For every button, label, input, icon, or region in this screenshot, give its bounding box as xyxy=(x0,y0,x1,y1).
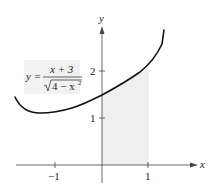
x-tick-label-neg1: −1 xyxy=(48,170,60,182)
equation-radicand: 4 − x xyxy=(52,80,75,92)
x-axis-label: x xyxy=(199,158,205,170)
equation-label: y = x + 3 4 − x 2 xyxy=(24,60,80,94)
y-axis-arrow-icon xyxy=(100,26,105,34)
equation-numerator: x + 3 xyxy=(49,63,74,75)
x-tick-label-1: 1 xyxy=(145,170,151,182)
x-axis-arrow-icon xyxy=(190,163,198,168)
y-tick-label-1: 1 xyxy=(90,112,96,124)
equation-exponent: 2 xyxy=(78,79,82,87)
y-tick-label-2: 2 xyxy=(90,65,96,77)
equation-lhs: y = xyxy=(25,70,41,82)
y-axis-label: y xyxy=(98,12,104,24)
equation-graphic: y = x + 3 4 − x 2 xyxy=(24,60,84,96)
